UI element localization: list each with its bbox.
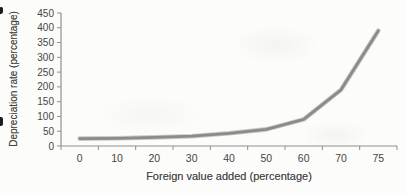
- series-line: [80, 31, 379, 139]
- series-line-halo: [80, 31, 379, 139]
- y-tick-label: 450: [37, 8, 54, 19]
- line-chart: 0501001502002503003504004500102030405060…: [0, 0, 407, 195]
- x-tick-label: 30: [186, 152, 198, 164]
- x-tick-label: 10: [111, 152, 123, 164]
- y-tick-label: 350: [37, 37, 54, 48]
- y-tick-label: 400: [37, 22, 54, 33]
- y-tick-label: 0: [48, 141, 54, 152]
- x-axis-title: Foreign value added (percentage): [129, 170, 329, 182]
- x-tick-label: 75: [372, 152, 384, 164]
- chart-figure: 0501001502002503003504004500102030405060…: [0, 0, 407, 195]
- x-tick-label: 70: [335, 152, 347, 164]
- y-tick-label: 250: [37, 67, 54, 78]
- y-tick-label: 300: [37, 52, 54, 63]
- y-tick-label: 150: [37, 96, 54, 107]
- x-tick-label: 50: [260, 152, 272, 164]
- y-tick-label: 200: [37, 81, 54, 92]
- x-tick-label: 60: [298, 152, 310, 164]
- y-tick-label: 50: [43, 126, 55, 137]
- x-tick-label: 40: [223, 152, 235, 164]
- y-axis-title: Depreciation rate (percentage): [8, 0, 24, 159]
- x-tick-label: 20: [148, 152, 160, 164]
- y-tick-label: 100: [37, 111, 54, 122]
- x-tick-label: 0: [77, 152, 83, 164]
